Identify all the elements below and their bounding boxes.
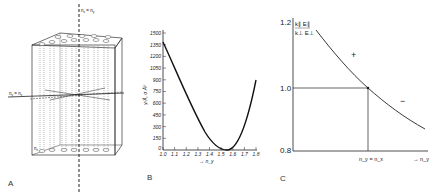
svg-text:750: 750 <box>153 88 162 94</box>
panel-c-ylabel-top: k∥ E∥ <box>295 21 310 28</box>
panel-c-letter: C <box>280 174 286 183</box>
panel-c-ytick-0-8: 0.8 <box>280 146 292 155</box>
panel-c-region-plus: + <box>351 50 356 60</box>
svg-text:1.3: 1.3 <box>194 151 201 157</box>
panel-a-horizontal-axis-label: ny = nx <box>9 91 23 97</box>
svg-text:1.2: 1.2 <box>183 151 190 157</box>
panel-b-y-ticks: 1500 1350 1200 1050 900 750 600 450 300 … <box>150 30 161 151</box>
panel-c-curve <box>316 30 425 129</box>
svg-text:300: 300 <box>153 124 162 130</box>
panel-c-ylabel-bottom: k⊥ E⊥ <box>295 30 314 36</box>
panel-b-y-label: γ/Å, σ Å² <box>142 85 148 105</box>
svg-text:1.6: 1.6 <box>229 151 236 157</box>
svg-text:1200: 1200 <box>150 53 161 59</box>
svg-text:1350: 1350 <box>150 42 161 48</box>
svg-text:150: 150 <box>153 135 162 141</box>
panel-c-region-minus: − <box>400 96 405 106</box>
svg-text:1050: 1050 <box>150 65 161 71</box>
panel-c-ytick-1-0: 1.0 <box>280 84 292 93</box>
panel-b-chart <box>163 30 257 150</box>
panel-b-x-ticks: 1.0 1.1 1.2 1.3 1.4 1.5 1.6 1.7 1.8 <box>160 151 260 157</box>
panel-c-x-marker: n_y = n_x <box>359 156 383 162</box>
panel-c-chart <box>293 18 428 151</box>
svg-text:1.1: 1.1 <box>171 151 178 157</box>
panel-c-x-label: → n_y <box>413 156 429 162</box>
svg-text:600: 600 <box>153 100 162 106</box>
svg-text:1.8: 1.8 <box>253 151 260 157</box>
panel-a-corner-label: nz <box>34 146 39 152</box>
panel-b-letter: B <box>147 173 152 182</box>
panel-a-block <box>8 4 124 192</box>
svg-text:1.5: 1.5 <box>218 151 225 157</box>
panel-a-vertical-axis-label: nx = ny <box>81 8 95 14</box>
panel-c-ytick-1-2: 1.2 <box>280 18 292 27</box>
svg-text:1.4: 1.4 <box>206 151 213 157</box>
svg-text:450: 450 <box>153 112 162 118</box>
svg-text:1.7: 1.7 <box>241 151 248 157</box>
panel-b-curve <box>163 42 256 150</box>
svg-text:1500: 1500 <box>150 30 161 36</box>
panel-a-letter: A <box>8 179 14 188</box>
panel-b-x-label: → n_y <box>199 158 214 164</box>
figure-canvas: nx = ny ny = nx nz A 1500 1350 1200 1050 <box>0 0 436 194</box>
svg-text:1.0: 1.0 <box>160 151 167 157</box>
svg-text:900: 900 <box>153 77 162 83</box>
